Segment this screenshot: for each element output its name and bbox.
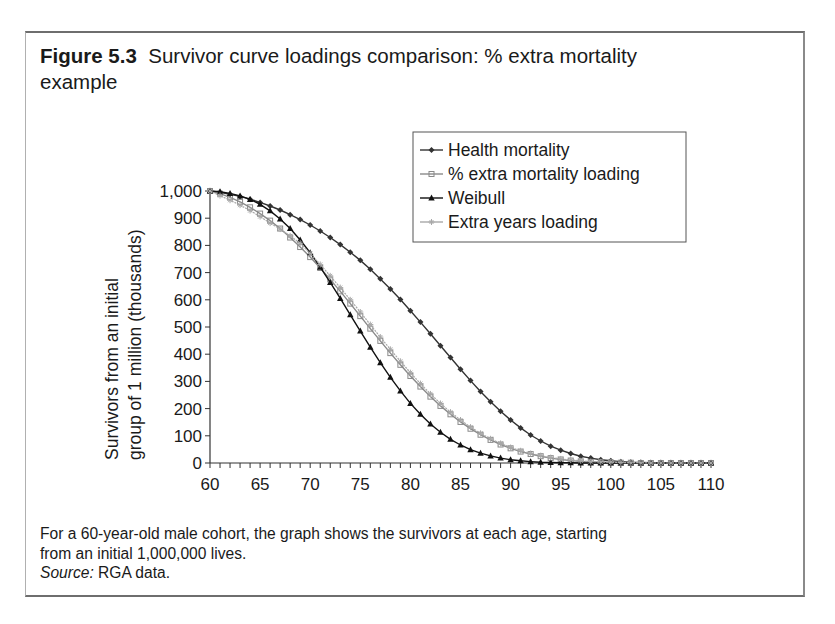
figure-caption: For a 60-year-old male cohort, the graph… [40,524,800,583]
x-tick-label: 75 [351,475,370,494]
y-tick-label: 300 [174,372,202,391]
y-axis-label: Survivors from an initial group of 1 mil… [102,229,145,460]
y-tick-label: 500 [174,318,202,337]
y-tick-label: 1,000 [159,182,202,201]
legend-label: Extra years loading [448,212,598,232]
x-tick-label: 85 [451,475,470,494]
y-axis-label-line2: group of 1 million (thousands) [125,229,145,460]
x-tick-label: 105 [647,475,675,494]
legend-label: % extra mortality loading [448,164,640,184]
x-tick-label: 95 [551,475,570,494]
x-tick-label: 80 [401,475,420,494]
y-tick-label: 800 [174,236,202,255]
y-tick-label: 900 [174,209,202,228]
legend: Health mortality% extra mortality loadin… [413,132,686,242]
y-tick-label: 200 [174,400,202,419]
x-tick-label: 110 [697,475,724,494]
x-tick-label: 70 [301,475,320,494]
y-tick-label: 700 [174,264,202,283]
x-tick-label: 60 [201,475,220,494]
y-axis-label-line1: Survivors from an initial [102,278,122,460]
y-tick-label: 400 [174,345,202,364]
y-tick-label: 600 [174,291,202,310]
x-tick-label: 65 [251,475,270,494]
legend-label: Weibull [448,188,505,208]
x-tick-label: 100 [597,475,625,494]
x-tick-label: 90 [501,475,520,494]
caption-line1: For a 60-year-old male cohort, the graph… [40,525,607,542]
y-tick-label: 0 [193,454,202,473]
source-label: Source: [40,564,94,581]
legend-item: % extra mortality loading [420,164,640,184]
y-tick-label: 100 [174,427,202,446]
legend-label: Health mortality [448,140,570,160]
caption-line2: from an initial 1,000,000 lives. [40,545,246,562]
source-text: RGA data. [94,564,170,581]
